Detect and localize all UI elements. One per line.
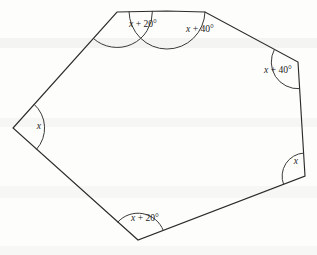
angle-label-bottom: x + 20°: [130, 212, 159, 223]
angle-arc-right-lower: [282, 153, 304, 184]
heptagon-outline: [13, 11, 305, 240]
angle-label-right-upper: x + 40°: [263, 64, 292, 75]
angle-label-left: x: [36, 120, 42, 131]
heptagon-figure: x + 20° x + 40° x + 40° x x + 20° x: [0, 0, 317, 255]
geometry-diagram: x + 20° x + 40° x + 40° x x + 20° x: [0, 0, 317, 255]
angle-label-top-left: x + 20°: [128, 18, 157, 29]
angle-label-top-middle: x + 40°: [185, 23, 214, 34]
angle-arc-top-left: [93, 11, 152, 47]
angle-label-right-lower: x: [293, 155, 299, 166]
